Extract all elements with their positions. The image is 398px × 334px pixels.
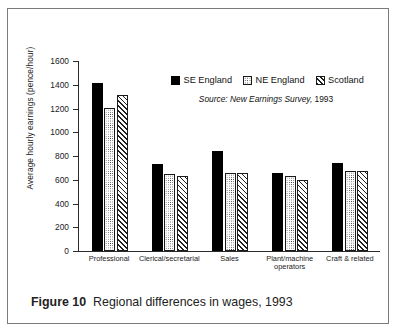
bar [152,164,163,251]
y-tick-label: 1400 [29,85,69,86]
y-tick-mark [73,180,78,181]
x-tick-label-line: operators [251,263,329,271]
bar [104,108,115,251]
y-tick-mark [73,227,78,228]
figure-frame: Average hourly earnings (pence/hour) 020… [7,8,389,324]
bar [117,95,128,251]
legend-item-se-england: SE England [171,75,232,85]
figure-caption: Figure 10Regional differences in wages, … [31,295,293,309]
chart-area: Average hourly earnings (pence/hour) 020… [8,9,388,281]
bar [332,163,343,251]
y-tick-label: 200 [29,227,69,228]
y-tick-label: 0 [29,251,69,252]
bar-group [152,61,189,251]
y-tick-label: 1000 [29,132,69,133]
bar [164,174,175,251]
x-tick-label-line: Craft & related [311,255,389,263]
y-axis-title: Average hourly earnings (pence/hour) [25,33,35,203]
y-tick-label: 1600 [29,61,69,62]
bar [237,173,248,251]
bar [272,173,283,251]
legend-label: SE England [184,75,233,85]
bar [225,173,236,251]
chart-legend: SE England NE England Scotland [171,75,364,85]
legend-label: Scotland [328,75,364,85]
bar [285,176,296,251]
source-note-year: 1993 [312,94,333,104]
y-tick-label: 1200 [29,109,69,110]
y-tick-mark [73,85,78,86]
bar-group [272,61,309,251]
legend-swatch-dotted-icon [243,76,252,85]
bar [345,171,356,251]
source-note-text: Source: New Earnings Survey, [199,94,312,104]
bar-group [332,61,369,251]
x-tick-label: Craft & related [311,255,389,263]
y-tick-mark [73,132,78,133]
figure-number: Figure 10 [31,295,86,309]
legend-item-scotland: Scotland [316,75,364,85]
y-tick-mark [73,156,78,157]
legend-swatch-solid-icon [171,76,180,85]
source-note: Source: New Earnings Survey, 1993 [171,94,361,104]
y-tick-mark [73,109,78,110]
bar-groups [79,61,380,251]
bar [297,180,308,251]
bar-group [212,61,249,251]
y-tick-label: 800 [29,156,69,157]
y-tick-mark [73,61,78,62]
bar [357,171,368,251]
y-tick-mark [73,251,78,252]
bar [92,83,103,251]
legend-label: NE England [256,75,305,85]
bar [177,176,188,251]
y-tick-label: 600 [29,180,69,181]
legend-swatch-hatch-icon [316,76,325,85]
bar [212,151,223,251]
y-tick-mark [73,204,78,205]
legend-item-ne-england: NE England [243,75,305,85]
bar-group [92,61,129,251]
figure-caption-text: Regional differences in wages, 1993 [93,295,293,309]
x-axis-line [78,251,380,252]
y-tick-label: 400 [29,204,69,205]
